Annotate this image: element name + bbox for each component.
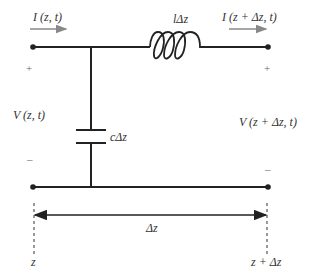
minus-sign-right: – xyxy=(264,163,271,175)
voltage-in-label: V (z, t) xyxy=(13,108,45,122)
voltage-out-label: V (z + Δz, t) xyxy=(239,115,297,129)
terminal-bottom-left xyxy=(30,184,36,190)
transmission-line-diagram: I (z, t) I (z + Δz, t) lΔz cΔz + V (z, t… xyxy=(0,0,309,272)
capacitor: cΔz xyxy=(76,47,127,187)
terminal-top-left xyxy=(30,44,36,50)
minus-sign-left: – xyxy=(26,153,33,165)
position-left-label: z xyxy=(30,255,36,269)
plus-sign-right: + xyxy=(264,62,270,74)
capacitor-label: cΔz xyxy=(110,130,127,144)
terminal-top-right xyxy=(265,44,271,50)
terminal-bottom-right xyxy=(265,184,271,190)
inductor-coil-icon xyxy=(150,32,210,59)
inductor: lΔz xyxy=(150,12,210,59)
current-in-label: I (z, t) xyxy=(32,10,62,24)
segment-length-label: Δz xyxy=(145,221,158,235)
current-out-label: I (z + Δz, t) xyxy=(221,10,277,24)
position-right-label: z + Δz xyxy=(250,255,282,269)
inductor-label: lΔz xyxy=(173,12,188,26)
plus-sign-left: + xyxy=(26,62,32,74)
